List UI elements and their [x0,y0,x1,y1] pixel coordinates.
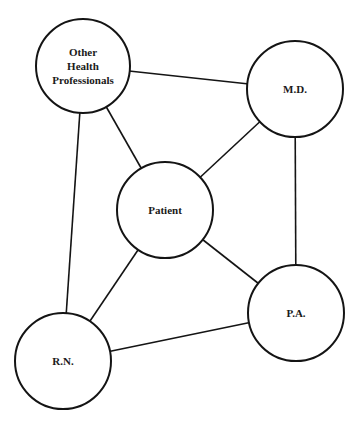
node-label: R.N. [52,355,74,367]
node-label: P.A. [286,307,305,319]
node-label: Professionals [52,74,114,86]
node-pa: P.A. [248,265,344,361]
health-team-diagram: OtherHealthProfessionalsM.D.PatientR.N.P… [0,0,358,421]
node-ohp: OtherHealthProfessionals [36,19,130,113]
node-md: M.D. [247,41,343,137]
node-label: Patient [148,204,182,216]
node-patient: Patient [117,162,213,258]
node-label: Health [67,60,99,72]
nodes: OtherHealthProfessionalsM.D.PatientR.N.P… [15,19,344,409]
node-rn: R.N. [15,313,111,409]
node-label: M.D. [283,83,307,95]
node-label: Other [69,46,97,58]
